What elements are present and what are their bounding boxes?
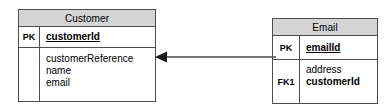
entity-customer-pk-row: PK customerId [19,27,155,48]
relationship-connector-email-to-customer [152,47,276,67]
entity-customer-title: Customer [19,10,155,27]
relationship-arrowhead-icon [155,52,167,63]
entity-customer-field-customerid: customerId [46,31,155,43]
entity-customer-pk-field-cell: customerId [40,27,155,47]
entity-email-field-customerid: customerId [306,76,377,88]
entity-customer-attributes-row: customerReference name email [19,48,155,102]
entity-email-field-emailid: emailId [306,42,377,54]
entity-email-pk-row: PK emailId [273,36,377,60]
entity-email-field-address: address [306,64,377,76]
entity-customer-attr-key-label [19,48,40,102]
entity-customer-pk-label: PK [19,27,40,47]
entity-email-fk-row: FK1 address customerId [273,60,377,103]
entity-email-pk-label: PK [273,36,300,59]
er-diagram-canvas: Customer PK customerId customerReference… [0,0,389,110]
entity-email-title: Email [273,19,377,36]
entity-customer-field-customerreference: customerReference [46,53,155,65]
entity-customer[interactable]: Customer PK customerId customerReference… [18,9,156,102]
entity-customer-attribute-list: customerReference name email [40,48,155,102]
entity-customer-field-email: email [46,77,155,89]
entity-customer-field-name: name [46,65,155,77]
entity-email-pk-field-cell: emailId [300,36,377,59]
entity-email-attribute-list: address customerId [300,60,377,103]
entity-email[interactable]: Email PK emailId FK1 address customerId [272,18,378,104]
entity-email-fk-label: FK1 [273,60,300,103]
